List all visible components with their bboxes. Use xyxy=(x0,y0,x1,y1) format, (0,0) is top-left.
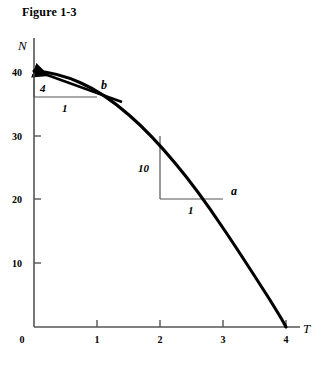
y-tick-label-10: 10 xyxy=(12,258,22,269)
x-tick-label-4: 4 xyxy=(284,334,289,345)
y-tick-label-40: 40 xyxy=(12,67,22,78)
y-axis-label: N xyxy=(17,38,28,53)
plot-area: N T 40 30 20 10 0 1 2 3 4 4 1 10 1 b a xyxy=(0,0,336,365)
tangent-rise-label-b: 4 xyxy=(39,82,46,94)
x-tick-label-2: 2 xyxy=(158,334,163,345)
x-axis-label: T xyxy=(303,321,311,336)
point-label-b: b xyxy=(101,78,107,92)
x-tick-label-1: 1 xyxy=(95,334,100,345)
y-tick-label-20: 20 xyxy=(12,194,22,205)
y-tick-label-30: 30 xyxy=(12,131,22,142)
secant-run-label-a: 1 xyxy=(188,204,194,216)
tangent-run-label-b: 1 xyxy=(62,102,68,114)
origin-label: 0 xyxy=(20,334,25,345)
secant-rise-label-a: 10 xyxy=(138,162,150,174)
x-tick-label-3: 3 xyxy=(221,334,226,345)
point-label-a: a xyxy=(231,184,237,198)
figure-container: Figure 1-3 N T xyxy=(0,0,336,365)
